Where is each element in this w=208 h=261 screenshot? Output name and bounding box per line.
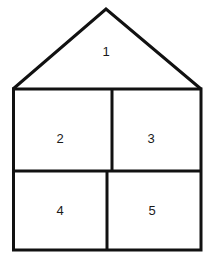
region-label-2: 2	[56, 131, 63, 146]
region-label-1: 1	[102, 44, 109, 59]
region-label-3: 3	[147, 131, 154, 146]
house-diagram: 1 2 3 4 5	[0, 0, 208, 261]
region-label-5: 5	[148, 203, 155, 218]
region-label-4: 4	[56, 203, 63, 218]
